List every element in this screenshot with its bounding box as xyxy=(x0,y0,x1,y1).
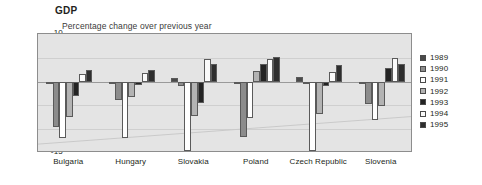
legend-swatch-icon xyxy=(420,66,426,72)
bar-group xyxy=(226,34,289,151)
bar-czech-republic-1995 xyxy=(336,65,343,82)
bar-slovenia-1992 xyxy=(378,82,385,107)
legend-item-1994[interactable]: 1994 xyxy=(420,108,478,119)
bar-hungary-1991 xyxy=(122,82,129,139)
bar-poland-1993 xyxy=(260,64,267,82)
bar-slovakia-1993 xyxy=(198,82,205,103)
chart-subtitle: Percentage change over previous year xyxy=(62,21,212,31)
bar-poland-1995 xyxy=(273,57,280,82)
legend-label: 1990 xyxy=(430,64,448,73)
bar-czech-republic-1989 xyxy=(296,77,303,82)
bar-slovenia-1991 xyxy=(372,82,379,121)
bar-group xyxy=(288,34,351,151)
x-axis-label: Hungary xyxy=(100,157,163,167)
bar-slovenia-1993 xyxy=(385,68,392,81)
bar-bulgaria-1995 xyxy=(86,70,93,82)
bar-bulgaria-1990 xyxy=(53,82,60,127)
bar-bulgaria-1994 xyxy=(79,74,86,81)
legend-item-1995[interactable]: 1995 xyxy=(420,119,478,130)
legend-label: 1991 xyxy=(430,75,448,84)
legend-swatch-icon xyxy=(420,55,426,61)
bar-czech-republic-1990 xyxy=(303,82,310,84)
bar-slovakia-1994 xyxy=(204,59,211,81)
bar-poland-1992 xyxy=(253,71,260,81)
bar-poland-1989 xyxy=(234,82,241,84)
legend-label: 1995 xyxy=(430,120,448,129)
legend-swatch-icon xyxy=(420,77,426,83)
bar-bulgaria-1992 xyxy=(66,82,73,118)
legend-swatch-icon xyxy=(420,88,426,94)
bar-slovakia-1989 xyxy=(171,78,178,81)
legend-item-1991[interactable]: 1991 xyxy=(420,74,478,85)
legend: 1989199019911992199319941995 xyxy=(420,52,478,130)
bar-bulgaria-1991 xyxy=(59,82,66,138)
bar-slovenia-1990 xyxy=(365,82,372,104)
x-axis-label: Slovenia xyxy=(350,157,413,167)
bar-hungary-1992 xyxy=(128,82,135,97)
bar-slovakia-1991 xyxy=(184,82,191,151)
chart-title: GDP xyxy=(55,5,78,16)
bar-poland-1991 xyxy=(247,82,254,118)
legend-item-1989[interactable]: 1989 xyxy=(420,52,478,63)
legend-item-1990[interactable]: 1990 xyxy=(420,63,478,74)
legend-label: 1989 xyxy=(430,53,448,62)
bar-slovakia-1990 xyxy=(178,82,185,87)
bar-slovenia-1995 xyxy=(398,64,405,82)
bar-slovenia-1989 xyxy=(359,82,366,84)
legend-swatch-icon xyxy=(420,99,426,105)
bar-group xyxy=(163,34,226,151)
bar-hungary-1990 xyxy=(115,82,122,100)
legend-label: 1994 xyxy=(430,109,448,118)
bar-czech-republic-1992 xyxy=(316,82,323,114)
bar-hungary-1989 xyxy=(109,82,116,84)
bar-czech-republic-1991 xyxy=(309,82,316,151)
bar-czech-republic-1993 xyxy=(323,82,330,86)
legend-swatch-icon xyxy=(420,111,426,117)
bar-slovakia-1992 xyxy=(191,82,198,117)
bar-slovakia-1995 xyxy=(211,64,218,82)
bar-group xyxy=(351,34,413,151)
legend-item-1992[interactable]: 1992 xyxy=(420,86,478,97)
x-axis-label: Slovakia xyxy=(162,157,225,167)
legend-swatch-icon xyxy=(420,122,426,128)
bar-czech-republic-1994 xyxy=(329,72,336,82)
legend-item-1993[interactable]: 1993 xyxy=(420,97,478,108)
bar-group xyxy=(38,34,101,151)
bar-hungary-1995 xyxy=(148,70,155,82)
bar-group xyxy=(101,34,164,151)
legend-label: 1992 xyxy=(430,87,448,96)
gdp-bar-chart: GDP Percentage change over previous year… xyxy=(0,0,482,185)
bar-bulgaria-1989 xyxy=(46,82,53,84)
x-axis-label: Bulgaria xyxy=(37,157,100,167)
bar-poland-1990 xyxy=(240,82,247,137)
bar-hungary-1994 xyxy=(142,73,149,82)
legend-label: 1993 xyxy=(430,98,448,107)
bar-bulgaria-1993 xyxy=(73,82,80,96)
x-axis-label: Czech Republic xyxy=(287,157,350,167)
bar-poland-1994 xyxy=(267,59,274,82)
x-axis-label: Poland xyxy=(225,157,288,167)
plot-area xyxy=(37,33,412,152)
bar-slovenia-1994 xyxy=(392,58,399,82)
bar-hungary-1993 xyxy=(135,82,142,86)
